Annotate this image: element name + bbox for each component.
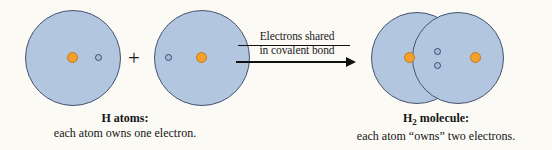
hydrogen-atom-left-nucleus xyxy=(67,52,78,63)
hydrogen-molecule-nucleus-right xyxy=(470,52,481,63)
left-caption: H atoms: each atom owns one electron. xyxy=(15,110,235,142)
shared-electron-upper xyxy=(434,48,441,55)
right-caption-title-suffix: molecule: xyxy=(417,111,469,125)
shared-electron-lower xyxy=(434,62,441,69)
right-caption-description: each atom “owns” two electrons. xyxy=(325,129,547,145)
plus-operator: + xyxy=(128,48,140,69)
covalent-bond-diagram: + Electrons shared in covalent bond H at… xyxy=(0,0,552,150)
hydrogen-atom-right-electron xyxy=(165,54,172,61)
arrow-label-divider xyxy=(238,45,350,46)
arrow-label-line-1: Electrons shared xyxy=(236,30,358,44)
left-caption-title: H atoms: xyxy=(15,110,235,126)
hydrogen-molecule-nucleus-left xyxy=(404,52,415,63)
right-caption-title-prefix: H xyxy=(403,111,412,125)
hydrogen-atom-left-electron xyxy=(95,54,102,61)
hydrogen-molecule-shell-right xyxy=(412,12,504,104)
hydrogen-atom-right-nucleus xyxy=(196,52,207,63)
reaction-arrow-icon xyxy=(236,58,358,67)
right-caption-title: H2 molecule: xyxy=(325,110,547,129)
reaction-arrow-group: Electrons shared in covalent bond xyxy=(236,30,358,67)
left-caption-description: each atom owns one electron. xyxy=(15,126,235,142)
right-caption: H2 molecule: each atom “owns” two electr… xyxy=(325,110,547,144)
